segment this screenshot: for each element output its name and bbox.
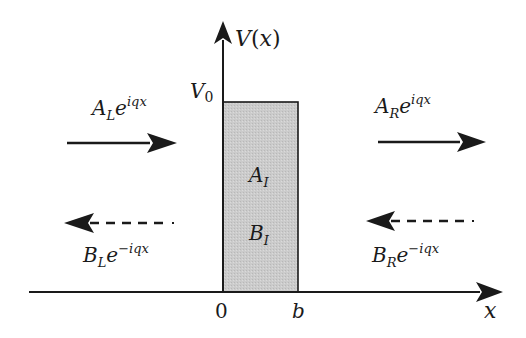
potential-barrier-diagram: V(x) x V0 0 b AI BI ALeiqx BLe−iqx AReiq… [0, 0, 526, 338]
right-transmitted-wave: AReiqx [373, 92, 486, 152]
right-incoming-wave: BRe−iqx [366, 211, 474, 270]
arrow-right-icon [457, 132, 486, 152]
arrow-left-icon [366, 211, 395, 231]
arrow-right-icon [147, 133, 177, 153]
y-axis-label: V(x) [235, 26, 281, 51]
left-reflected-wave: BLe−iqx [64, 213, 174, 270]
barrier-height-label: V0 [190, 79, 213, 105]
right-incoming-label: BRe−iqx [371, 241, 440, 270]
left-reflected-label: BLe−iqx [82, 241, 150, 270]
x-axis-label: x [484, 298, 497, 323]
left-incoming-label: ALeiqx [90, 94, 147, 123]
left-incoming-wave: ALeiqx [67, 94, 177, 153]
right-transmitted-label: AReiqx [373, 92, 432, 121]
arrow-left-icon [64, 213, 94, 233]
tick-label-b: b [292, 299, 305, 323]
tick-label-zero: 0 [215, 299, 228, 323]
potential-barrier [223, 102, 298, 292]
